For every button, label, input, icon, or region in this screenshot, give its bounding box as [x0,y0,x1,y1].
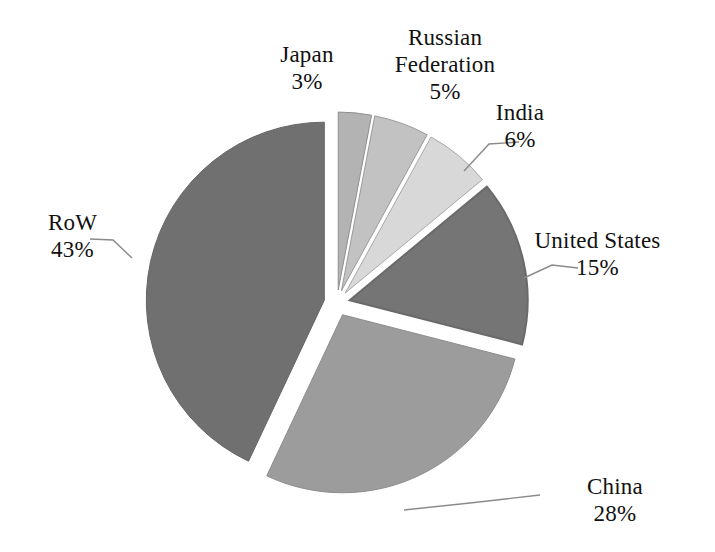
slice-label-china-value: 28% [540,501,690,528]
slice-label-row-name: RoW [5,210,140,237]
slice-label-united-states: United States 15% [490,228,705,282]
slice-label-india-value: 6% [455,127,585,154]
slice-label-russian-federation-name-line1: Russian [355,25,535,52]
slice-label-china-name: China [540,474,690,501]
slice-label-russian-federation: Russian Federation 5% [355,25,535,106]
slice-label-japan-value: 3% [247,69,367,96]
slice-label-row-value: 43% [5,237,140,264]
slice-label-japan-name: Japan [247,42,367,69]
slice-label-india: India 6% [455,100,585,154]
pie-chart-figure: Japan 3% Russian Federation 5% India 6% … [0,0,715,552]
slice-label-china: China 28% [540,474,690,528]
leader-line-china [404,495,540,510]
slice-label-india-name: India [455,100,585,127]
slice-label-russian-federation-name-line2: Federation [355,52,535,79]
slice-label-united-states-name: United States [490,228,705,255]
slice-label-row: RoW 43% [5,210,140,264]
slice-label-united-states-value: 15% [490,255,705,282]
slice-label-japan: Japan 3% [247,42,367,96]
